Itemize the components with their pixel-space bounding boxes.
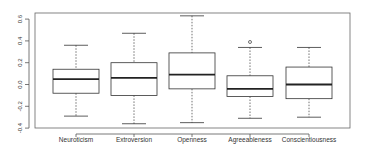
box-agreeableness: [227, 40, 273, 118]
x-category-label: Neuroticism: [59, 136, 93, 143]
boxplot-chart: -0.4-0.20.00.20.40.6 NeuroticismExtrover…: [0, 0, 368, 152]
y-axis: -0.4-0.20.00.20.40.6: [17, 14, 29, 133]
outlier-point: [249, 40, 252, 43]
box-conscientiousness: [286, 47, 332, 117]
y-tick-label: -0.4: [17, 122, 23, 133]
x-axis: NeuroticismExtroversionOpennessAgreeable…: [59, 134, 337, 144]
box-neuroticism: [53, 45, 99, 116]
x-category-label: Agreeableness: [228, 136, 272, 144]
box-openness: [169, 16, 215, 123]
x-category-label: Extroversion: [116, 136, 153, 143]
iqr-box: [53, 69, 99, 93]
y-tick-label: 0.2: [17, 58, 23, 67]
boxes-group: [53, 16, 332, 124]
y-tick-label: 0.0: [17, 80, 23, 89]
iqr-box: [111, 63, 157, 96]
x-category-label: Openness: [177, 136, 207, 144]
y-tick-label: 0.6: [17, 14, 23, 23]
iqr-box: [227, 76, 273, 97]
y-tick-label: 0.4: [17, 36, 23, 45]
iqr-box: [169, 53, 215, 89]
x-category-label: Conscientiousness: [282, 136, 337, 143]
y-tick-label: -0.2: [17, 100, 23, 111]
iqr-box: [286, 67, 332, 99]
box-extroversion: [111, 33, 157, 123]
